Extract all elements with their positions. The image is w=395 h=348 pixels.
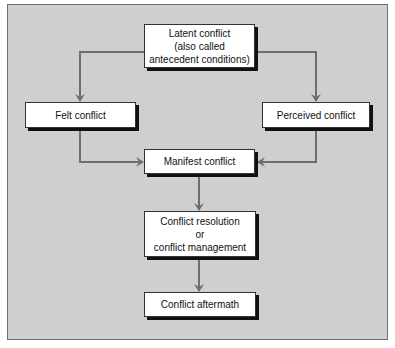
node-label: Conflict resolution or conflict manageme… (154, 215, 246, 254)
node-label: Latent conflict (also called antecedent … (149, 27, 250, 66)
node-label: Felt conflict (55, 109, 106, 122)
node-latent-conflict: Latent conflict (also called antecedent … (144, 24, 255, 68)
node-conflict-resolution: Conflict resolution or conflict manageme… (144, 211, 256, 257)
node-label: Conflict aftermath (161, 298, 239, 311)
arrow-latent-to-felt (80, 52, 144, 101)
node-manifest-conflict: Manifest conflict (144, 149, 255, 174)
node-perceived-conflict: Perceived conflict (262, 102, 370, 128)
node-label: Manifest conflict (164, 155, 236, 168)
arrow-latent-to-perceived (255, 52, 316, 101)
node-conflict-aftermath: Conflict aftermath (144, 292, 256, 317)
node-felt-conflict: Felt conflict (25, 102, 136, 128)
node-label: Perceived conflict (277, 109, 355, 122)
arrow-perceived-to-manifest (258, 128, 316, 162)
arrow-felt-to-manifest (80, 128, 143, 162)
